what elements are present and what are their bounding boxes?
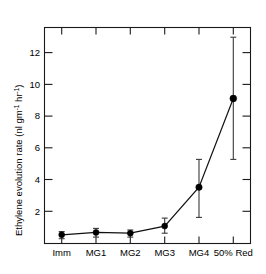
- x-category-label: MG1: [86, 247, 107, 258]
- chart-canvas: 2 4 6 8 10 12 Imm MG1: [0, 0, 266, 274]
- x-category-label: 50% Red: [214, 247, 253, 258]
- y-tick-label: 4: [35, 174, 40, 185]
- x-category-label: Imm: [52, 247, 71, 258]
- y-tick-label: 6: [35, 142, 40, 153]
- x-category-label: MG4: [189, 247, 210, 258]
- data-point: [162, 223, 168, 229]
- y-axis-title-mid: hr: [13, 93, 24, 104]
- data-point: [59, 232, 65, 238]
- data-point: [230, 95, 237, 102]
- x-category-label: MG2: [120, 247, 141, 258]
- x-category-label: MG3: [154, 247, 175, 258]
- data-point: [127, 230, 133, 236]
- y-tick-label: 10: [29, 79, 40, 90]
- data-point: [93, 229, 99, 235]
- y-tick-label: 8: [35, 110, 40, 121]
- y-tick-label: 12: [29, 47, 40, 58]
- ethylene-evolution-chart: 2 4 6 8 10 12 Imm MG1: [0, 0, 266, 274]
- y-axis-title-main: Ethylene evolution rate (nl gm: [13, 110, 24, 236]
- data-point: [196, 184, 202, 190]
- y-axis-title-tail: ): [13, 84, 24, 87]
- y-tick-label: 2: [35, 206, 40, 217]
